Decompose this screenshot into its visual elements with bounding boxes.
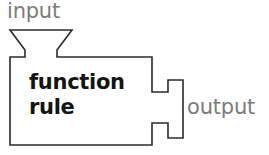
input-label: input (7, 1, 60, 22)
output-label: output (187, 97, 255, 118)
function-rule-line-1: function (29, 70, 125, 95)
function-rule-line-2: rule (29, 95, 125, 120)
function-machine-figure: input function rule output (0, 0, 269, 155)
function-rule-label: function rule (29, 70, 125, 119)
